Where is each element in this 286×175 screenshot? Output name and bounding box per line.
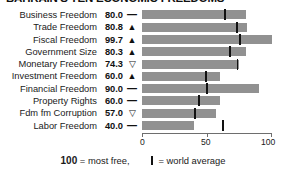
freedom-row: Property Rights60.0— [0,95,286,107]
world-average-mark [239,34,241,45]
freedom-row: Investment Freedom60.0▲ [0,70,286,82]
freedom-row-track [142,83,272,95]
freedom-score-bar [142,60,239,69]
freedom-row-label: Labor Freedom [33,120,97,132]
world-average-mark [222,120,224,131]
freedom-row-track [142,9,272,21]
trend-up-icon: ▲ [126,46,138,58]
freedom-row-value: 57.0 [99,107,123,119]
freedom-row-label: Financial Freedom [20,83,97,95]
x-axis: 050100 [142,133,272,149]
freedom-row: Fdm fm Corruption57.0▽ [0,107,286,119]
freedom-row-label: Investment Freedom [12,70,97,82]
freedom-row-value: 80.3 [99,46,123,58]
world-average-mark [236,22,238,33]
freedom-row: Fiscal Freedom99.7▲ [0,34,286,46]
world-average-mark [206,83,208,94]
freedom-row-value: 60.0 [99,95,123,107]
freedom-row: Labor Freedom40.0— [0,120,286,132]
freedom-score-bar [142,72,220,81]
axis-tick-label: 100 [261,137,275,147]
axis-tick [271,133,272,137]
legend-max-text: = most free, [80,155,130,166]
trend-flat-icon: — [126,83,138,95]
freedom-row-track [142,120,272,132]
freedom-score-bar [142,96,220,105]
freedom-row: Government Size80.3▲ [0,46,286,58]
axis-tick-label: 50 [201,137,211,147]
world-average-mark [198,95,200,106]
chart-title: BAHRAIN'S TEN ECONOMIC FREEDOMS [6,0,224,4]
axis-tick-label: 0 [140,137,145,147]
axis-tick [207,133,208,137]
freedom-row-label: Monetary Freedom [18,58,97,70]
freedom-row: Business Freedom80.0— [0,9,286,21]
freedom-rows-list: Business Freedom80.0—Trade Freedom80.8▲F… [0,9,286,132]
world-average-mark [229,46,231,57]
freedom-row: Trade Freedom80.8▲ [0,21,286,33]
trend-up-icon: ▲ [126,21,138,33]
freedom-score-bar [142,23,247,32]
freedom-row-label: Trade Freedom [33,21,97,33]
trend-up-icon: ▲ [126,70,138,82]
world-average-mark [205,71,207,82]
freedom-row-value: 80.0 [99,9,123,21]
freedom-row-value: 90.0 [99,83,123,95]
freedom-row-label: Government Size [25,46,97,58]
freedom-row-track [142,107,272,119]
legend-max-value: 100 [61,155,78,166]
freedom-row-value: 40.0 [99,120,123,132]
freedom-row-track [142,21,272,33]
freedom-score-bar [142,35,272,44]
freedom-row-value: 74.3 [99,58,123,70]
trend-up-icon: ▲ [126,34,138,46]
chart-legend: 100 = most free, = world average [0,154,286,168]
freedom-row-track [142,46,272,58]
trend-flat-icon: — [126,120,138,132]
freedom-row: Monetary Freedom74.3▽ [0,58,286,70]
freedom-score-bar [142,109,216,118]
world-average-icon [151,156,153,166]
freedom-row-track [142,70,272,82]
world-average-mark [224,9,226,20]
trend-down-icon: ▽ [126,107,138,119]
trend-flat-icon: — [126,9,138,21]
freedom-score-bar [142,84,259,93]
freedom-row: Financial Freedom90.0— [0,83,286,95]
freedom-row-label: Fiscal Freedom [33,34,97,46]
freedom-row-label: Property Rights [33,95,97,107]
world-average-mark [194,108,196,119]
freedom-score-bar [142,121,194,130]
freedom-score-bar [142,10,246,19]
freedom-row-label: Business Freedom [19,9,97,21]
trend-flat-icon: — [126,95,138,107]
freedom-row-value: 60.0 [99,70,123,82]
axis-tick [142,133,143,137]
economic-freedoms-chart: BAHRAIN'S TEN ECONOMIC FREEDOMS Business… [0,0,286,175]
world-average-mark [237,59,239,70]
freedom-row-track [142,34,272,46]
freedom-row-value: 80.8 [99,21,123,33]
freedom-row-value: 99.7 [99,34,123,46]
freedom-row-label: Fdm fm Corruption [20,107,98,119]
freedom-row-track [142,95,272,107]
legend-average-text: = world average [158,155,225,166]
freedom-row-track [142,58,272,70]
trend-down-icon: ▽ [126,58,138,70]
